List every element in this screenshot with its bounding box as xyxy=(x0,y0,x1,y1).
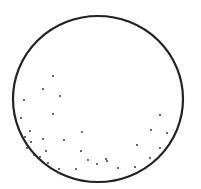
stipple-dot xyxy=(96,163,98,165)
stipple-dot xyxy=(105,158,107,160)
sphere-illustration xyxy=(0,0,201,189)
stipple-dot xyxy=(23,99,25,101)
stipple-dot xyxy=(39,156,41,158)
stipple-dot xyxy=(117,167,119,169)
stipple-dot xyxy=(150,129,152,131)
stipple-dot xyxy=(24,136,26,138)
stipple-dot xyxy=(29,130,31,132)
stipple-dot xyxy=(30,141,32,143)
stipple-dot xyxy=(52,75,54,77)
stipple-dot xyxy=(58,168,60,170)
stipple-dot xyxy=(80,150,82,152)
stipple-dot xyxy=(159,147,161,149)
stipple-dot xyxy=(134,166,136,168)
stipple-dot xyxy=(59,95,61,97)
stipple-dot xyxy=(159,114,161,116)
stipple-dot xyxy=(87,159,89,161)
stipple-dot xyxy=(81,131,83,133)
stipple-dot xyxy=(26,147,28,149)
stipple-dot xyxy=(63,139,65,141)
circle-outline xyxy=(13,16,183,182)
stipple-dots xyxy=(20,75,168,170)
stipple-dot xyxy=(42,138,44,140)
stipple-dot xyxy=(47,162,49,164)
stipple-dot xyxy=(33,154,35,156)
stipple-dot xyxy=(20,117,22,119)
stipple-dot xyxy=(75,168,77,170)
stipple-dot xyxy=(136,144,138,146)
stipple-dot xyxy=(149,157,151,159)
stipple-dot xyxy=(45,150,47,152)
stipple-dot xyxy=(106,160,108,162)
stipple-dot xyxy=(42,88,44,90)
stipple-dot xyxy=(166,132,168,134)
sphere-drawing xyxy=(0,0,201,189)
stipple-dot xyxy=(52,113,54,115)
